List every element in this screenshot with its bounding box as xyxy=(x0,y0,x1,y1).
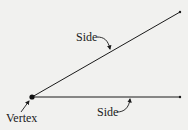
vertex-point xyxy=(29,94,34,99)
vertex-label: Vertex xyxy=(6,112,37,124)
side-lower-label: Side xyxy=(97,106,118,118)
ray-lower-endpoint xyxy=(179,96,181,98)
side-lower-pointer-arrow xyxy=(117,99,130,112)
angle-diagram: Side Side Vertex xyxy=(0,0,188,130)
side-upper-label: Side xyxy=(76,31,97,43)
side-upper-pointer-arrow xyxy=(97,37,110,49)
ray-upper-endpoint xyxy=(179,11,181,13)
ray-upper-side xyxy=(32,12,180,97)
